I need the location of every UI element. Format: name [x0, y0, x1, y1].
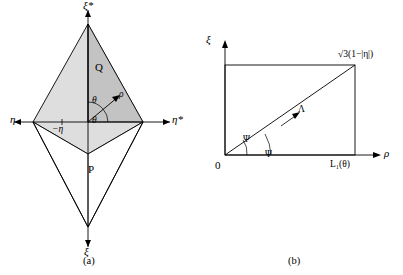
label-xi-star-top: ξ*	[83, 0, 93, 11]
label-eta-left: η	[10, 114, 15, 125]
label-eta-star-right: η*	[172, 114, 183, 125]
caption-panel-b: (b)	[288, 256, 300, 267]
label-point-p: P	[88, 164, 94, 175]
label-point-q: Q	[95, 62, 103, 73]
shaded-triangle	[88, 24, 143, 122]
eta-axis-arrow-right	[163, 119, 170, 125]
label-lambda: Λ	[298, 105, 305, 115]
label-minus-eta: −η	[52, 125, 63, 135]
label-psi-upper: Ψ	[243, 135, 250, 145]
label-origin: 0	[215, 160, 221, 171]
label-rho-axis-b: ρ	[384, 148, 389, 159]
label-theta-upper: θ	[92, 96, 97, 106]
label-top-right: √3(1−|η|)	[338, 50, 373, 60]
label-rho: ρ	[119, 90, 124, 100]
xi-axis-arrow-b	[222, 40, 228, 48]
label-psi-lower: Ψ	[265, 150, 272, 160]
rho-axis-arrow-b	[373, 152, 381, 158]
caption-panel-a: (a)	[83, 256, 95, 267]
label-xi-axis-b: ξ	[206, 34, 211, 45]
label-theta-lower: θ	[92, 116, 97, 126]
xi-axis-arrow-top	[85, 10, 91, 17]
panel-a-drawing	[0, 2, 200, 252]
figure-container: ξ* ξ η η* −η Q P ρ θ θ (a) ξ ρ 0 √3(1−|η…	[0, 0, 403, 275]
label-bottom-right: L₁(θ)	[330, 160, 350, 170]
